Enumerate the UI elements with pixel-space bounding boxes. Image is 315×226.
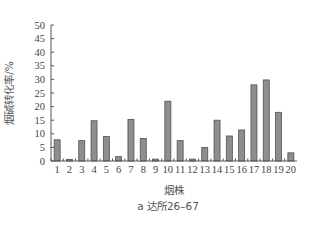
x-tick-label: 1 <box>55 164 60 175</box>
bars <box>54 80 294 161</box>
x-tick-label: 12 <box>187 164 198 175</box>
y-tick-label: 5 <box>40 142 45 153</box>
bar <box>276 112 282 161</box>
y-tick-label: 25 <box>35 88 46 99</box>
bar <box>288 153 294 161</box>
bar <box>116 157 122 161</box>
x-tick-label: 2 <box>67 164 72 175</box>
x-tick-label: 5 <box>104 164 109 175</box>
bar <box>140 138 146 161</box>
x-tick-label: 17 <box>249 164 260 175</box>
bar <box>177 141 183 161</box>
x-tick-label: 3 <box>79 164 84 175</box>
bar <box>79 141 85 161</box>
x-tick-label: 6 <box>116 164 121 175</box>
x-tick-label: 14 <box>212 164 223 175</box>
y-tick-label: 0 <box>40 156 45 167</box>
bar <box>263 80 269 161</box>
bar <box>128 119 134 161</box>
x-tick-label: 15 <box>224 164 235 175</box>
x-tick-label: 13 <box>200 164 211 175</box>
y-tick-label: 20 <box>35 101 46 112</box>
y-tick-label: 40 <box>35 47 46 58</box>
x-tick-label: 18 <box>261 164 272 175</box>
x-tick-label: 19 <box>273 164 284 175</box>
y-tick-label: 50 <box>35 20 46 31</box>
bar-chart: 05101520253035404550 1234567891011121314… <box>0 0 315 226</box>
bar <box>251 85 257 161</box>
y-tick-label: 45 <box>35 33 46 44</box>
y-tick-label: 10 <box>35 128 46 139</box>
bar <box>226 136 232 161</box>
y-tick-label: 30 <box>35 74 46 85</box>
x-tick-label: 10 <box>163 164 174 175</box>
bar <box>214 120 220 161</box>
x-tick-label: 16 <box>236 164 247 175</box>
x-tick-label: 9 <box>153 164 158 175</box>
bar <box>91 121 97 161</box>
bar <box>202 147 208 161</box>
bar <box>54 140 60 161</box>
bar <box>103 137 109 161</box>
y-axis-title: 烟碱转化率/% <box>3 61 15 125</box>
bar <box>165 101 171 161</box>
x-tick-label: 11 <box>175 164 185 175</box>
y-tick-label: 15 <box>35 115 46 126</box>
bar <box>239 130 245 161</box>
x-tick-label: 4 <box>91 164 97 175</box>
x-axis-title: 烟株 <box>164 184 185 196</box>
chart-caption: a 达所26–67 <box>137 200 199 212</box>
x-tick-label: 7 <box>128 164 133 175</box>
x-tick-label: 20 <box>286 164 297 175</box>
y-tick-label: 35 <box>35 60 46 71</box>
x-tick-label: 8 <box>141 164 146 175</box>
